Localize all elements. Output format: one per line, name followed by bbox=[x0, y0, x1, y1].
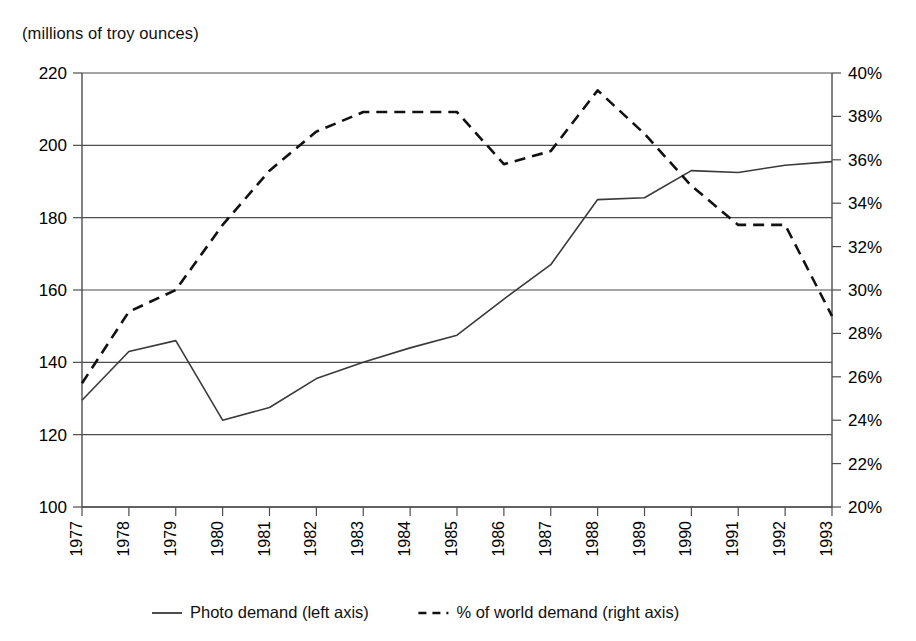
x-axis-year-label: 1984 bbox=[396, 521, 413, 557]
x-axis-year-label: 1978 bbox=[115, 521, 132, 557]
legend-group: Photo demand (left axis)% of world deman… bbox=[152, 603, 679, 621]
right-axis-tick-label: 34% bbox=[848, 194, 882, 213]
legend-item-label: Photo demand (left axis) bbox=[190, 603, 369, 621]
x-axis-year-label: 1989 bbox=[631, 521, 648, 557]
right-axis-tick-label: 32% bbox=[848, 238, 882, 257]
right-axis-tick-label: 22% bbox=[848, 455, 882, 474]
series-line-photo-demand bbox=[82, 162, 832, 421]
right-axis-tick-label: 38% bbox=[848, 107, 882, 126]
series-line-percent-world-demand bbox=[82, 90, 832, 383]
left-axis-tick-label: 140 bbox=[39, 353, 67, 372]
x-axis-year-label: 1993 bbox=[818, 521, 835, 557]
right-axis-tick-label: 30% bbox=[848, 281, 882, 300]
x-tick-labels-group: 1977197819791980198119821983198419851986… bbox=[68, 521, 835, 557]
right-axis-group bbox=[832, 73, 841, 507]
x-axis-year-label: 1980 bbox=[209, 521, 226, 557]
x-axis-year-label: 1977 bbox=[68, 521, 85, 557]
x-axis-year-label: 1991 bbox=[724, 521, 741, 557]
bottom-axis-group bbox=[82, 507, 832, 516]
chart-container: (millions of troy ounces) 10012014016018… bbox=[0, 0, 916, 641]
x-axis-year-label: 1988 bbox=[584, 521, 601, 557]
right-axis-tick-label: 26% bbox=[848, 368, 882, 387]
line-chart-svg: 100120140160180200220 20%22%24%26%28%30%… bbox=[0, 0, 916, 641]
right-axis-tick-label: 40% bbox=[848, 64, 882, 83]
x-axis-year-label: 1987 bbox=[537, 521, 554, 557]
x-axis-year-label: 1992 bbox=[771, 521, 788, 557]
left-axis-tick-label: 220 bbox=[39, 64, 67, 83]
left-tick-labels-group: 100120140160180200220 bbox=[39, 64, 67, 517]
x-axis-year-label: 1983 bbox=[349, 521, 366, 557]
left-axis-tick-label: 180 bbox=[39, 209, 67, 228]
x-axis-year-label: 1986 bbox=[490, 521, 507, 557]
left-axis-tick-label: 200 bbox=[39, 136, 67, 155]
series-group bbox=[82, 90, 832, 420]
x-axis-year-label: 1990 bbox=[677, 521, 694, 557]
left-axis-tick-label: 100 bbox=[39, 498, 67, 517]
left-axis-group bbox=[73, 73, 82, 507]
x-axis-year-label: 1985 bbox=[443, 521, 460, 557]
right-axis-tick-label: 28% bbox=[848, 324, 882, 343]
left-axis-tick-label: 160 bbox=[39, 281, 67, 300]
right-axis-tick-label: 24% bbox=[848, 411, 882, 430]
left-axis-tick-label: 120 bbox=[39, 426, 67, 445]
x-axis-year-label: 1981 bbox=[256, 521, 273, 557]
gridlines-group bbox=[82, 73, 832, 507]
right-axis-tick-label: 20% bbox=[848, 498, 882, 517]
right-axis-tick-label: 36% bbox=[848, 151, 882, 170]
right-tick-labels-group: 20%22%24%26%28%30%32%34%36%38%40% bbox=[848, 64, 882, 517]
x-axis-year-label: 1982 bbox=[302, 521, 319, 557]
x-axis-year-label: 1979 bbox=[162, 521, 179, 557]
legend-item-label: % of world demand (right axis) bbox=[456, 603, 679, 621]
